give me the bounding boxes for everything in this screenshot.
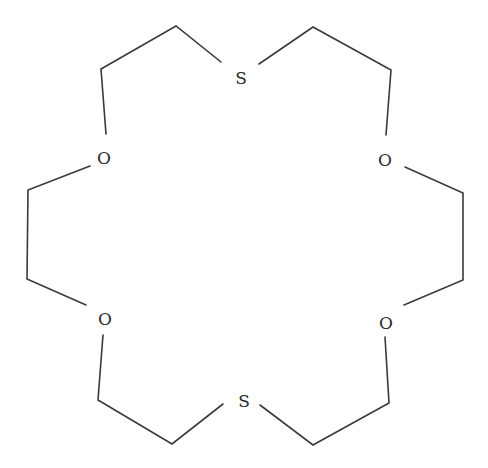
bond-chain-4 (98, 335, 223, 444)
atom-o_lower_left: O (98, 309, 112, 329)
bond-chain-5 (260, 337, 389, 445)
bond-chain-3 (404, 167, 463, 305)
bond-lines (27, 26, 463, 445)
chemical-structure-diagram: SOOOOS (0, 0, 488, 468)
atom-s_bottom: S (238, 391, 250, 411)
atom-s_top: S (235, 68, 247, 88)
atom-labels: SOOOOS (97, 68, 393, 411)
atom-o_lower_right: O (379, 313, 393, 333)
atom-o_upper_left: O (97, 148, 111, 168)
atom-o_upper_right: O (378, 150, 392, 170)
bond-chain-1 (259, 27, 391, 135)
bond-chain-2 (27, 166, 90, 305)
bond-chain-0 (101, 26, 221, 134)
crown-ether-ring: SOOOOS (0, 0, 488, 468)
